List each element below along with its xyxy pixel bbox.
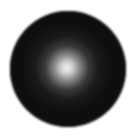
radial-highlight <box>10 11 126 127</box>
dark-sphere <box>10 11 126 127</box>
